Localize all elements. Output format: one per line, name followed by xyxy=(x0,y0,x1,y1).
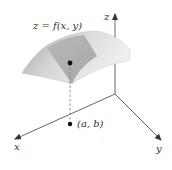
y-axis-label: y xyxy=(156,144,162,154)
surface-diagram xyxy=(0,0,172,170)
y-axis xyxy=(115,94,161,140)
domain-point xyxy=(68,122,72,126)
surface-label: z = f(x, y) xyxy=(33,21,82,31)
z-axis-label: z xyxy=(104,12,109,22)
point-label: (a, b) xyxy=(77,119,104,129)
surface-point xyxy=(68,61,73,66)
x-axis xyxy=(15,94,115,139)
x-axis-label: x xyxy=(14,142,20,152)
